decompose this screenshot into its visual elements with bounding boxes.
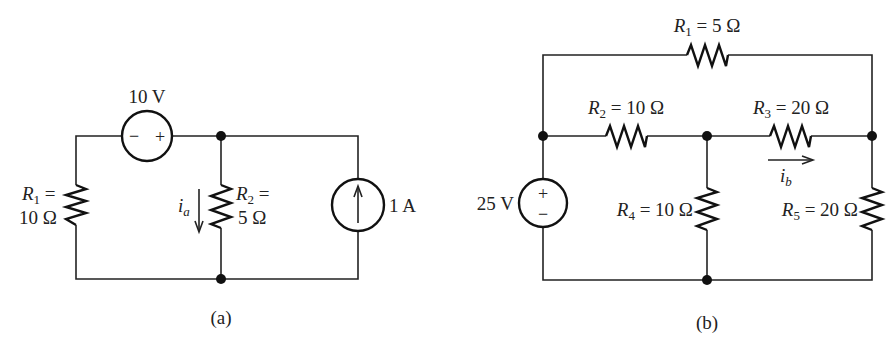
r4-b-label: R4 = 10 Ω — [616, 199, 693, 223]
plus-sign: + — [538, 184, 548, 204]
node-b-middle — [702, 131, 712, 141]
current-source-label: 1 A — [389, 195, 416, 216]
node-a-top — [216, 131, 226, 141]
resistor-r2-a — [211, 185, 231, 228]
circuit-b-wires — [543, 55, 872, 280]
r1-b-label: R1 = 5 Ω — [673, 15, 741, 39]
resistor-r1-a — [66, 185, 86, 225]
minus-sign: − — [538, 204, 548, 224]
voltage-source-25v: + − — [519, 179, 567, 227]
plus-sign: + — [155, 127, 165, 147]
current-label-ib: ib — [780, 165, 792, 189]
current-source-1a — [332, 179, 384, 231]
r2-b-label: R2 = 10 Ω — [587, 97, 664, 121]
r3-b-label: R3 = 20 Ω — [752, 97, 829, 121]
node-b-right — [867, 131, 877, 141]
resistor-r4-b — [697, 188, 717, 230]
node-b-bottom — [702, 275, 712, 285]
caption-a: (a) — [210, 307, 231, 329]
node-a-bottom — [216, 274, 226, 284]
resistor-r1-b — [687, 45, 728, 66]
voltage-source-10v: − + — [122, 111, 172, 161]
voltage-source-25v-label: 25 V — [477, 193, 514, 214]
minus-sign: − — [129, 126, 139, 146]
node-b-left — [538, 131, 548, 141]
circuit-figure: − + 10 V R1 = 10 Ω R2 = 5 Ω ia 1 A (a) — [0, 0, 895, 352]
r2-a-label: R2 = — [235, 183, 270, 207]
resistor-r2-b — [606, 126, 647, 147]
circuit-b: R1 = 5 Ω R2 = 10 Ω R3 = 20 Ω ib + − 25 V… — [477, 15, 882, 334]
current-arrow-ia — [195, 189, 203, 232]
r1-a-value: 10 Ω — [19, 207, 57, 228]
r1-a-label: R1 = — [21, 183, 56, 207]
resistor-r3-b — [770, 126, 811, 147]
current-arrow-ib — [768, 156, 813, 164]
current-label-ia: ia — [178, 195, 190, 219]
resistor-r5-b — [862, 188, 882, 230]
voltage-source-label: 10 V — [128, 86, 165, 107]
r5-b-label: R5 = 20 Ω — [781, 199, 858, 223]
r2-a-value: 5 Ω — [238, 207, 266, 228]
caption-b: (b) — [696, 312, 718, 334]
circuit-a: − + 10 V R1 = 10 Ω R2 = 5 Ω ia 1 A (a) — [19, 86, 416, 329]
